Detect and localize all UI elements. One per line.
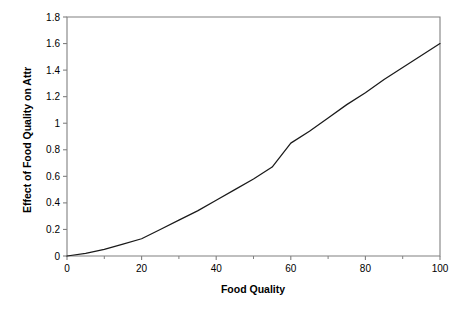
x-tick-label: 40 <box>211 263 223 274</box>
y-tick-label: 1.2 <box>46 91 60 102</box>
line-chart: 00.20.40.60.811.21.41.61.8 020406080100 … <box>0 0 474 310</box>
y-tick-label: 0.6 <box>46 171 60 182</box>
x-tick-label: 20 <box>136 263 148 274</box>
y-tick-label: 0.8 <box>46 144 60 155</box>
y-tick-label: 0.4 <box>46 197 60 208</box>
x-tick-label: 100 <box>432 263 449 274</box>
chart-figure: 00.20.40.60.811.21.41.61.8 020406080100 … <box>0 0 474 310</box>
y-tick-label: 0.2 <box>46 224 60 235</box>
y-tick-label: 1.8 <box>46 12 60 23</box>
y-tick-label: 1.4 <box>46 65 60 76</box>
y-tick-label: 1.6 <box>46 38 60 49</box>
chart-background <box>0 0 474 310</box>
y-tick-label: 1 <box>54 118 60 129</box>
x-tick-label: 0 <box>64 263 70 274</box>
x-axis-title: Food Quality <box>221 283 285 295</box>
y-tick-label: 0 <box>54 251 60 262</box>
x-tick-label: 60 <box>285 263 297 274</box>
x-tick-label: 80 <box>360 263 372 274</box>
y-axis-title: Effect of Food Quality on Attr <box>21 67 33 213</box>
